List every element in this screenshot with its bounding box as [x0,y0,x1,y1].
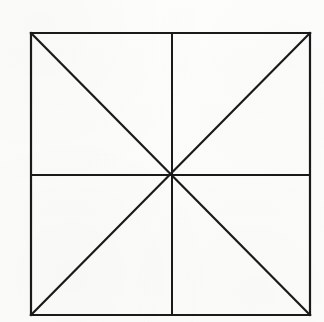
figure-canvas: Square with midlines and diagonals A squ… [0,0,324,322]
geometric-figure: Square with midlines and diagonals A squ… [0,0,324,322]
